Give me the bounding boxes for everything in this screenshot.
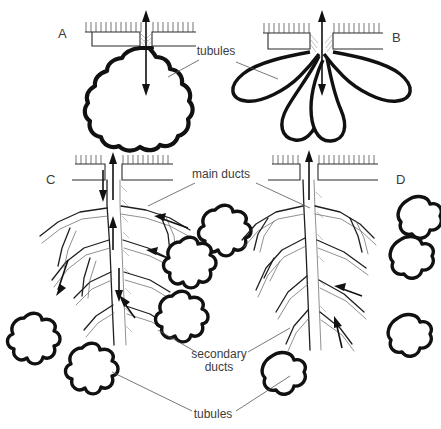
- panel-letter-b: B: [392, 30, 401, 45]
- tubule-rosette-c-2: [163, 237, 216, 288]
- tubule-rosette-c-4: [7, 313, 60, 364]
- panel-letter-d: D: [396, 172, 405, 187]
- panel-letter-c: C: [46, 172, 55, 187]
- tubule-rosette-c-3: [155, 291, 208, 342]
- label-secondary-ducts-line2: ducts: [205, 360, 234, 374]
- tubule-rosette-c-5: [65, 343, 118, 394]
- label-main-ducts: main ducts: [192, 167, 250, 181]
- panel-letter-a: A: [58, 26, 67, 41]
- label-tubules-top: tubules: [197, 44, 236, 58]
- label-secondary-ducts-line1: secondary: [191, 347, 246, 361]
- label-tubules-bottom: tubules: [194, 407, 233, 421]
- gland-morphology-figure: A: [0, 0, 441, 429]
